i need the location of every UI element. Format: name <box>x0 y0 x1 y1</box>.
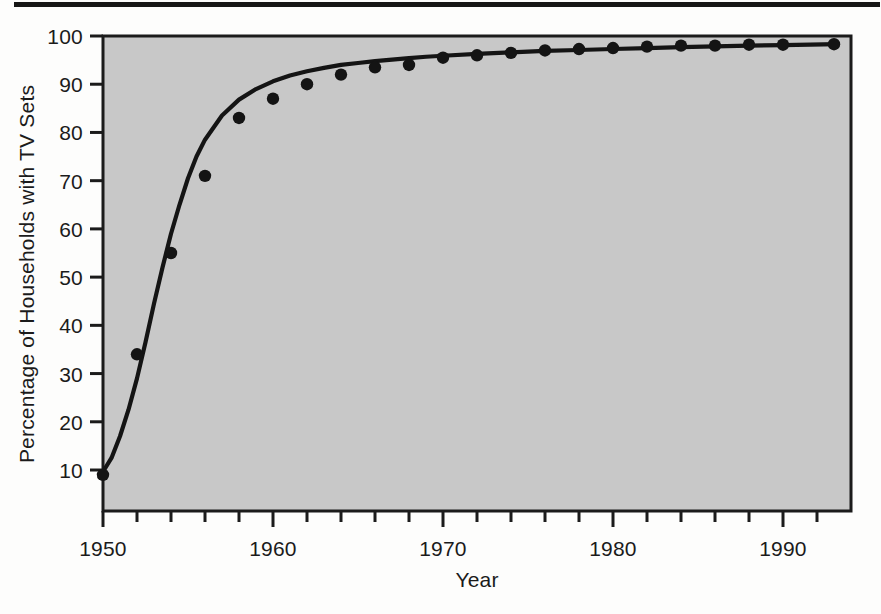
data-point <box>828 38 840 50</box>
x-tick-label: 1970 <box>419 537 467 560</box>
y-axis-ticks <box>90 36 103 470</box>
data-point <box>165 247 177 259</box>
x-tick-label: 1950 <box>79 537 127 560</box>
y-tick-label: 30 <box>59 363 83 386</box>
data-point <box>267 92 279 104</box>
data-point <box>505 47 517 59</box>
data-point <box>131 348 143 360</box>
data-point <box>641 40 653 52</box>
y-tick-label: 70 <box>59 170 83 193</box>
data-point <box>437 52 449 64</box>
y-tick-label: 100 <box>47 25 83 48</box>
figure-container: 102030405060708090100 195019601970198019… <box>0 0 881 614</box>
data-point <box>743 38 755 50</box>
data-point <box>369 61 381 73</box>
data-point <box>777 38 789 50</box>
y-axis-title: Percentage of Households with TV Sets <box>15 85 38 463</box>
data-point <box>539 44 551 56</box>
data-point <box>607 42 619 54</box>
y-tick-label: 50 <box>59 266 83 289</box>
x-tick-label: 1980 <box>589 537 637 560</box>
data-point <box>709 39 721 51</box>
x-tick-label: 1990 <box>759 537 807 560</box>
y-axis-tick-labels: 102030405060708090100 <box>47 25 83 482</box>
y-tick-label: 90 <box>59 73 83 96</box>
y-tick-label: 40 <box>59 314 83 337</box>
x-axis-tick-labels: 19501960197019801990 <box>79 537 807 560</box>
data-point <box>335 68 347 80</box>
data-point <box>199 170 211 182</box>
y-tick-label: 20 <box>59 411 83 434</box>
x-tick-label: 1960 <box>249 537 297 560</box>
plot-panel <box>103 36 851 511</box>
data-point <box>403 59 415 71</box>
y-tick-label: 80 <box>59 121 83 144</box>
data-point <box>301 78 313 90</box>
x-axis-title: Year <box>455 568 498 591</box>
chart-svg: 102030405060708090100 195019601970198019… <box>0 0 881 614</box>
data-point <box>233 112 245 124</box>
y-tick-label: 60 <box>59 218 83 241</box>
x-axis-ticks <box>103 511 817 527</box>
data-point <box>675 39 687 51</box>
data-point <box>471 49 483 61</box>
y-tick-label: 10 <box>59 459 83 482</box>
data-point <box>97 469 109 481</box>
data-point <box>573 43 585 55</box>
